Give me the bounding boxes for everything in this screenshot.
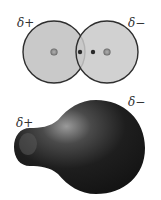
right-nucleus [103,48,110,55]
bonding-electron [78,50,82,54]
small-lobe-highlight [19,133,37,155]
partial-positive-label: δ+ [16,116,33,130]
polar-bond-figure: δ+ δ− δ+ δ− [0,0,161,200]
left-nucleus [50,48,57,55]
overlapping-atoms-diagram: δ+ δ− [17,16,145,83]
partial-negative-label: δ− [128,16,145,30]
partial-positive-label: δ+ [17,16,34,30]
electron-density-diagram: δ+ δ− [14,95,145,194]
partial-negative-label: δ− [128,95,145,109]
bonding-electron [91,50,95,54]
